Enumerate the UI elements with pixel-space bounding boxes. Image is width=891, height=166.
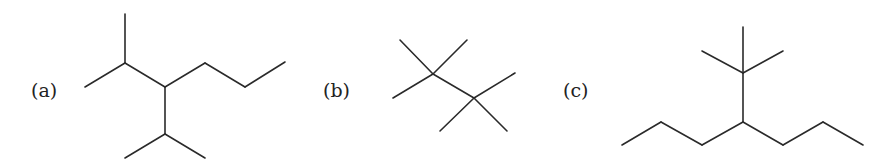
skeletal-structure-a: [85, 14, 285, 158]
skeletal-structures: [0, 0, 891, 166]
skeletal-structure-c: [622, 27, 863, 145]
skeletal-structure-b: [393, 40, 515, 131]
